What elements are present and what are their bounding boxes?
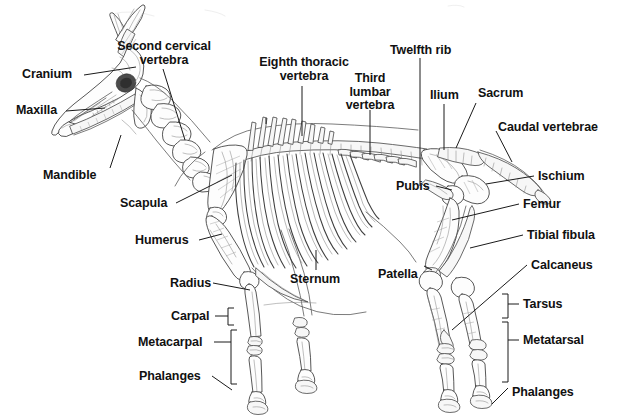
label-maxilla: Maxilla	[16, 104, 57, 118]
label-sacrum: Sacrum	[478, 87, 523, 101]
label-calcaneus: Calcaneus	[531, 259, 593, 273]
label-tarsus: Tarsus	[523, 298, 562, 312]
label-phalanges-fore: Phalanges	[139, 370, 201, 384]
label-third-lumbar-vertebra: Third lumbar vertebra	[337, 72, 403, 113]
label-tibial-fibula: Tibial fibula	[527, 229, 595, 243]
label-scapula: Scapula	[120, 197, 167, 211]
label-metatarsal: Metatarsal	[523, 334, 584, 348]
label-ilium: Ilium	[430, 89, 459, 103]
label-layer: Cranium Maxilla Mandible Second cervical…	[0, 0, 623, 418]
anatomy-diagram: .bone{fill:#fdfdfd;stroke:#3a3a3a;stroke…	[0, 0, 623, 418]
label-sternum: Sternum	[290, 273, 340, 287]
label-femur: Femur	[523, 198, 561, 212]
label-twelfth-rib: Twelfth rib	[390, 44, 451, 58]
label-caudal-vertebrae: Caudal vertebrae	[498, 121, 598, 135]
label-radius: Radius	[170, 277, 211, 291]
label-ischium: Ischium	[538, 170, 585, 184]
label-mandible: Mandible	[43, 169, 96, 183]
label-metacarpal: Metacarpal	[138, 336, 202, 350]
label-patella: Patella	[378, 268, 418, 282]
label-humerus: Humerus	[135, 234, 188, 248]
label-cranium: Cranium	[22, 68, 72, 82]
label-carpal: Carpal	[171, 310, 209, 324]
label-phalanges-hind: Phalanges	[512, 386, 574, 400]
label-pubis: Pubis	[396, 180, 430, 194]
label-second-cervical-vertebra: Second cervical vertebra	[90, 40, 238, 67]
